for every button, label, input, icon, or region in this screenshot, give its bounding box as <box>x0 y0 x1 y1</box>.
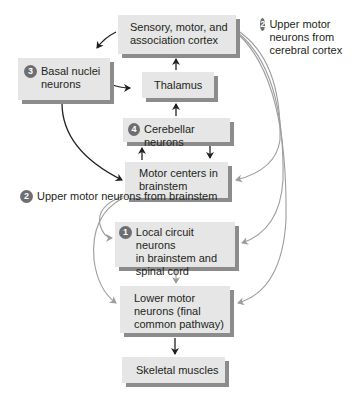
badge-2-cortex: 2 <box>260 18 265 31</box>
thalamus-label: Thalamus <box>154 79 214 92</box>
node-cerebellar: 4 Cerebellar neurons <box>123 118 230 142</box>
arrow-cortex-to-basal <box>97 32 116 48</box>
badge-1: 1 <box>119 226 132 239</box>
node-lower-motor: Lower motor neurons (final common pathwa… <box>120 286 230 333</box>
umn-brainstem-line-3: brainstem <box>169 190 217 202</box>
cortex-line-2: association cortex <box>130 34 236 47</box>
node-skeletal-muscles: Skeletal muscles <box>122 357 225 383</box>
umn-cortex-line-2: neurons <box>269 31 309 43</box>
umn-cortex-line-4: cortex <box>312 44 342 56</box>
cerebellar-label: Cerebellar neurons <box>144 123 230 149</box>
lower-line-1: Lower motor <box>134 292 230 305</box>
label-umn-brainstem: 2 Upper motor neurons from brainstem <box>20 190 217 203</box>
basal-line-2: neurons <box>41 78 100 91</box>
badge-3: 3 <box>24 65 37 78</box>
lower-line-3: common pathway) <box>134 318 230 331</box>
local-line-3: spinal cord <box>136 265 235 278</box>
basal-line-1: Basal nuclei <box>41 65 100 78</box>
lower-line-2: neurons (final <box>134 305 230 318</box>
local-line-2: in brainstem and <box>136 252 235 265</box>
local-line-1: Local circuit neurons <box>136 226 235 252</box>
arrow-basal-to-motor <box>62 103 122 180</box>
umn-brainstem-line-2: neurons from <box>101 190 166 202</box>
badge-2-brainstem: 2 <box>20 190 33 203</box>
cortex-line-1: Sensory, motor, and <box>130 21 236 34</box>
umn-brainstem-line-1: Upper motor <box>37 190 98 202</box>
motor-centers-line-1: Motor centers in <box>139 167 228 180</box>
node-basal-nuclei: 3 Basal nuclei neurons <box>18 58 110 100</box>
label-umn-cortex: 2 Upper motor neurons from cerebral cort… <box>260 18 354 57</box>
arrow-basal-to-thalamus <box>110 84 130 88</box>
node-local-circuit: 1 Local circuit neurons in brainstem and… <box>115 222 235 267</box>
node-cortex: Sensory, motor, and association cortex <box>118 15 236 54</box>
umn-cortex-line-1: Upper motor <box>269 18 330 30</box>
node-thalamus: Thalamus <box>142 72 214 98</box>
badge-4: 4 <box>128 123 140 136</box>
skeletal-label: Skeletal muscles <box>136 364 225 377</box>
